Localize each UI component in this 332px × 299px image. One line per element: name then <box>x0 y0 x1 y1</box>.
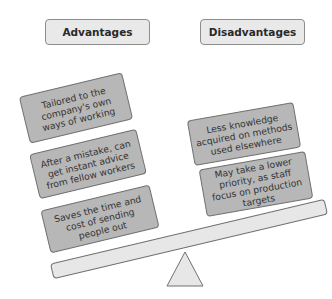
disadvantages-header: Disadvantages <box>200 19 305 45</box>
fulcrum-triangle-icon <box>165 250 205 288</box>
advantages-title: Advantages <box>62 26 132 38</box>
disadvantages-title: Disadvantages <box>209 26 297 38</box>
advantages-header: Advantages <box>45 19 150 45</box>
